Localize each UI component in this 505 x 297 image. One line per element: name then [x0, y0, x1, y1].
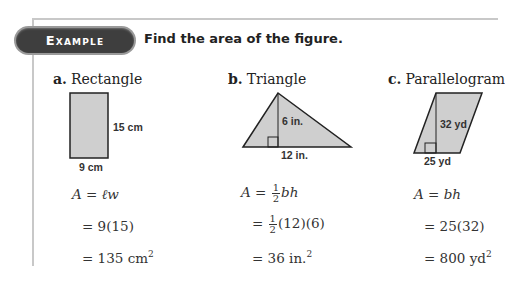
shape-name-triangle: Triangle: [247, 71, 307, 87]
triangle-base-label: 12 in.: [281, 149, 308, 160]
item-letter-c: c.: [388, 71, 401, 87]
parallelogram-figure: 32 yd 25 yd: [408, 88, 488, 173]
step1-parallelogram: = 25(32): [424, 218, 485, 234]
frame-left-border: [32, 18, 34, 266]
label-rectangle: a.Rectangle: [53, 71, 142, 87]
triangle-height-label: 6 in.: [282, 115, 303, 127]
parallelogram-height-label: 32 yd: [440, 118, 467, 130]
formula-rectangle: A = ℓw: [72, 186, 119, 203]
fraction-one-half: 12: [272, 183, 280, 204]
formula-parallelogram: A = bh: [414, 186, 461, 202]
step2-parallelogram: = 800 yd2: [424, 249, 492, 266]
frame-top-border: [32, 18, 498, 20]
example-badge: Example: [16, 28, 134, 53]
rectangle-height-label: 15 cm: [113, 121, 143, 133]
triangle-figure: 6 in. 12 in.: [238, 88, 363, 160]
item-letter-a: a.: [53, 71, 67, 87]
formula-triangle: A = 12bh: [241, 183, 298, 204]
step2-triangle: = 36 in.2: [252, 249, 312, 266]
rectangle-figure: 15 cm 9 cm: [60, 88, 170, 178]
example-badge-label: Example: [46, 33, 105, 48]
shape-name-parallelogram: Parallelogram: [405, 71, 505, 87]
label-parallelogram: c.Parallelogram: [388, 71, 505, 87]
step2-rectangle: = 135 cm2: [82, 249, 154, 266]
rectangle-base-label: 9 cm: [79, 161, 103, 173]
shape-name-rectangle: Rectangle: [71, 71, 142, 87]
step1-rectangle: = 9(15): [82, 218, 134, 234]
parallelogram-base-label: 25 yd: [424, 155, 451, 167]
problem-prompt: Find the area of the figure.: [144, 31, 343, 46]
step1-triangle: = 12(12)(6): [252, 214, 325, 235]
item-letter-b: b.: [228, 71, 243, 87]
label-triangle: b.Triangle: [228, 71, 306, 87]
